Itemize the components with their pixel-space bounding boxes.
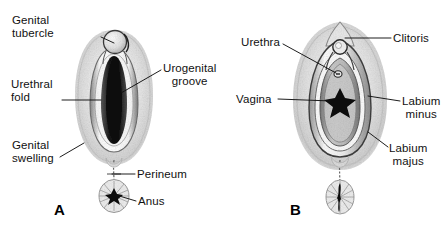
label-labium-majus-line1: Labium <box>389 142 427 155</box>
anus-shape <box>99 180 129 213</box>
label-genital-swelling: Genital swelling <box>12 139 54 164</box>
label-vagina: Vagina <box>236 93 272 106</box>
urethra-shape <box>334 71 342 77</box>
label-genital-swelling-line2: swelling <box>12 152 54 165</box>
label-labium-majus-line2: majus <box>389 155 427 168</box>
artwork-layer <box>0 0 447 231</box>
anatomical-figure: Genital tubercle Urethral fold Urogenita… <box>0 0 447 231</box>
label-urogenital-groove-line2: groove <box>163 75 216 88</box>
label-labium-minus: Labium minus <box>402 95 440 120</box>
label-genital-swelling-line1: Genital <box>12 139 54 152</box>
label-urethral-fold: Urethral fold <box>11 78 53 103</box>
label-urogenital-groove: Urogenital groove <box>163 62 216 87</box>
leader-genital-swelling <box>60 143 84 157</box>
label-genital-tubercle-line1: Genital <box>12 14 54 27</box>
label-urethral-fold-line1: Urethral <box>11 78 53 91</box>
label-labium-minus-line2: minus <box>402 108 440 121</box>
label-genital-tubercle-line2: tubercle <box>12 27 54 40</box>
panel-letter-b: B <box>290 201 301 218</box>
label-perineum: Perineum <box>137 168 187 181</box>
label-urethral-fold-line2: fold <box>11 91 53 104</box>
label-genital-tubercle: Genital tubercle <box>12 14 54 39</box>
label-urethra: Urethra <box>241 36 280 49</box>
panel-letter-a: A <box>54 201 65 218</box>
label-labium-majus: Labium majus <box>389 142 427 167</box>
label-urogenital-groove-line1: Urogenital <box>163 62 216 75</box>
anus-shape-b <box>326 180 354 214</box>
panel-a-artwork <box>75 30 153 213</box>
label-labium-minus-line1: Labium <box>402 95 440 108</box>
panel-b-artwork <box>293 22 387 214</box>
label-anus: Anus <box>138 195 165 208</box>
label-clitoris: Clitoris <box>393 32 429 45</box>
genital-tubercle-shape <box>104 31 127 54</box>
